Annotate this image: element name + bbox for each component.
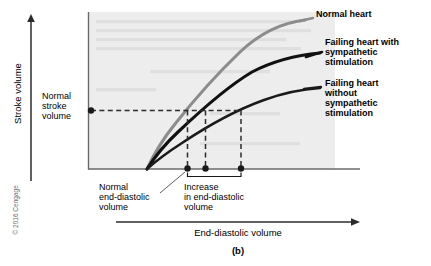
marker-edv-with-sympathetic: [202, 165, 208, 171]
x-axis-arrow: [116, 218, 360, 226]
annotation-normal-end-diastolic-volume: Normal end-diastolic volume: [99, 182, 171, 212]
increase-bracket: [188, 173, 242, 177]
figure-caption: (b): [116, 246, 360, 257]
marker-normal-end-diastolic-volume: [184, 165, 190, 171]
copyright-notice: © 2016 Cengage: [12, 165, 19, 235]
legend-label-normal-heart: Normal heart: [316, 9, 428, 19]
legend-label-failing-without-sympathetic: Failing heart without sympathetic stimul…: [325, 78, 431, 118]
marker-edv-without-sympathetic: [238, 165, 244, 171]
y-axis-arrow: [27, 14, 35, 181]
x-axis-label: End-diastolic volume: [116, 228, 360, 239]
legend-label-failing-with-sympathetic: Failing heart with sympathetic stimulati…: [325, 37, 431, 67]
annotation-normal-stroke-volume: Normal stroke volume: [42, 91, 88, 121]
annotation-increase-in-end-diastolic-volume: Increase in end-diastolic volume: [184, 182, 264, 212]
y-axis-label: Stroke volume: [12, 49, 23, 139]
marker-normal-stroke-volume: [88, 107, 94, 113]
